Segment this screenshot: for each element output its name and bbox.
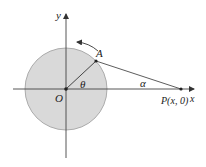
point-A-dot [94,59,97,62]
point-P-label: P(x, 0) [160,95,189,107]
rotation-arrow-icon [77,42,98,51]
origin-label: O [55,92,63,104]
y-axis-label: y [55,9,61,21]
geometry-diagram: y x O A P(x, 0) θ α [0,0,206,167]
x-axis-label: x [189,93,195,104]
angle-alpha-label: α [140,77,146,89]
point-P-dot [179,87,182,90]
segment-AP [96,61,181,89]
angle-theta-label: θ [80,78,86,90]
point-A-label: A [95,47,103,59]
point-O-dot [64,87,68,91]
